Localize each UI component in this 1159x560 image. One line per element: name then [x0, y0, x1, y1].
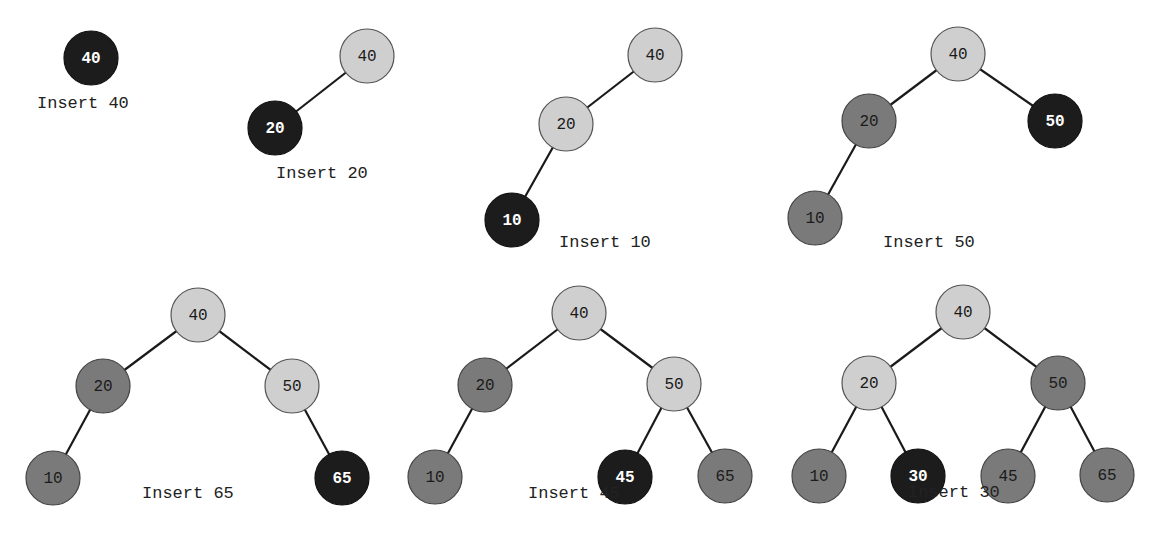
tree-node: 10 — [792, 449, 846, 503]
node-value: 40 — [645, 47, 664, 65]
node-value: 50 — [664, 376, 683, 394]
node-value: 20 — [265, 120, 284, 138]
tree-node: 40 — [552, 286, 606, 340]
tree-node: 40 — [628, 28, 682, 82]
tree-step-3: 402010Insert 10 — [485, 28, 682, 252]
node-value: 45 — [998, 468, 1017, 486]
tree-step-1: 40Insert 40 — [37, 31, 129, 113]
tree-node: 40 — [931, 27, 985, 81]
step-caption: Insert 45 — [528, 484, 620, 503]
tree-node: 40 — [340, 29, 394, 83]
node-value: 20 — [475, 377, 494, 395]
tree-step-6: 402050104565Insert 45 — [408, 286, 752, 504]
node-value: 65 — [332, 470, 351, 488]
tree-node: 40 — [64, 31, 118, 85]
node-value: 10 — [809, 468, 828, 486]
tree-node: 50 — [647, 357, 701, 411]
node-value: 40 — [188, 307, 207, 325]
node-value: 10 — [43, 470, 62, 488]
tree-node: 20 — [76, 359, 130, 413]
node-value: 40 — [81, 50, 100, 68]
tree-node: 20 — [539, 97, 593, 151]
tree-node: 10 — [408, 450, 462, 504]
tree-node: 65 — [315, 451, 369, 505]
tree-node: 10 — [485, 193, 539, 247]
step-caption: Insert 30 — [908, 483, 1000, 502]
node-value: 50 — [1045, 113, 1064, 131]
node-value: 65 — [1097, 467, 1116, 485]
node-value: 20 — [859, 113, 878, 131]
step-caption: Insert 20 — [276, 164, 368, 183]
tree-step-7: 40205010304565Insert 30 — [792, 285, 1134, 503]
tree-node: 10 — [788, 191, 842, 245]
node-value: 20 — [859, 375, 878, 393]
node-value: 10 — [425, 469, 444, 487]
tree-node: 65 — [698, 449, 752, 503]
node-value: 40 — [953, 304, 972, 322]
tree-node: 20 — [842, 356, 896, 410]
node-value: 40 — [357, 48, 376, 66]
step-caption: Insert 65 — [142, 484, 234, 503]
step-caption: Insert 10 — [559, 233, 651, 252]
node-value: 10 — [805, 210, 824, 228]
node-value: 50 — [1048, 375, 1067, 393]
node-value: 50 — [282, 378, 301, 396]
node-value: 65 — [715, 468, 734, 486]
node-value: 20 — [93, 378, 112, 396]
node-value: 40 — [948, 46, 967, 64]
tree-node: 50 — [1031, 356, 1085, 410]
tree-node: 50 — [265, 359, 319, 413]
tree-step-5: 4020501065Insert 65 — [26, 288, 369, 505]
node-value: 10 — [502, 212, 521, 230]
step-caption: Insert 40 — [37, 94, 129, 113]
tree-node: 10 — [26, 451, 80, 505]
node-value: 20 — [556, 116, 575, 134]
tree-node: 40 — [171, 288, 225, 342]
tree-node: 20 — [458, 358, 512, 412]
tree-node: 20 — [842, 94, 896, 148]
tree-node: 20 — [248, 101, 302, 155]
tree-step-2: 4020Insert 20 — [248, 29, 394, 183]
step-caption: Insert 50 — [883, 233, 975, 252]
tree-node: 50 — [1028, 94, 1082, 148]
avl-insertion-diagram: 40Insert 404020Insert 20402010Insert 104… — [0, 0, 1159, 560]
tree-node: 40 — [936, 285, 990, 339]
node-value: 40 — [569, 305, 588, 323]
tree-step-4: 40205010Insert 50 — [788, 27, 1082, 252]
tree-node: 65 — [1080, 448, 1134, 502]
